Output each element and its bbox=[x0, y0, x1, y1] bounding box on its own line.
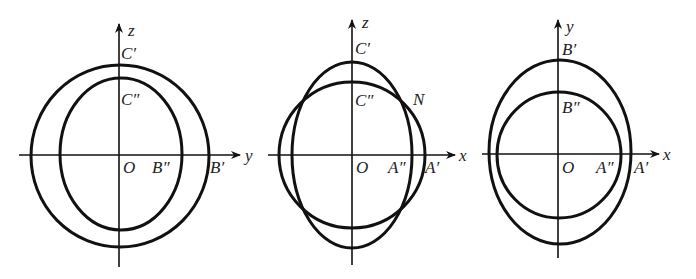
point-b-prime: B′ bbox=[210, 158, 224, 177]
point-c-prime: C′ bbox=[121, 44, 136, 63]
ellipse-projections-diagram: z C′ C″ O B″ B′ y z C′ C″ N O A″ A′ x y … bbox=[0, 0, 696, 279]
point-a-double-prime: A″ bbox=[595, 158, 614, 177]
point-c-prime: C′ bbox=[355, 39, 370, 58]
point-b-double-prime: B″ bbox=[152, 158, 170, 177]
point-a-double-prime: A″ bbox=[387, 158, 406, 177]
x-axis-label: x bbox=[662, 145, 671, 164]
point-c-double-prime: C″ bbox=[355, 91, 374, 110]
figure-yz: z C′ C″ O B″ B′ y bbox=[19, 21, 253, 267]
origin-label: O bbox=[123, 158, 135, 177]
point-b-double-prime: B″ bbox=[562, 98, 580, 117]
figure-xz: z C′ C″ N O A″ A′ x bbox=[268, 13, 467, 265]
point-a-prime: A′ bbox=[633, 158, 648, 177]
origin-label: O bbox=[562, 158, 574, 177]
z-axis-label: z bbox=[361, 13, 369, 32]
point-n: N bbox=[412, 90, 426, 109]
inner-circle bbox=[497, 92, 621, 218]
z-axis-label: z bbox=[127, 21, 135, 40]
point-b-prime: B′ bbox=[562, 40, 576, 59]
outer-ellipse bbox=[489, 60, 631, 244]
y-axis-label: y bbox=[564, 17, 574, 36]
y-axis-label: y bbox=[243, 146, 253, 165]
point-a-prime: A′ bbox=[424, 158, 439, 177]
origin-label: O bbox=[356, 158, 368, 177]
figure-xy: y B′ B″ O A″ A′ x bbox=[482, 17, 671, 258]
point-c-double-prime: C″ bbox=[121, 90, 140, 109]
x-axis-label: x bbox=[458, 146, 467, 165]
